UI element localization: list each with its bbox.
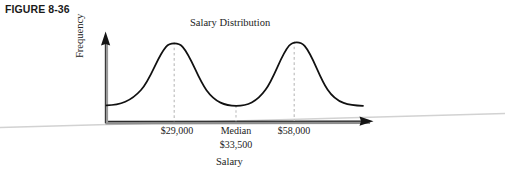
x-tick-label-mode-low: $29,000 (150, 125, 204, 136)
chart-title: Salary Distribution (190, 17, 270, 28)
y-axis-arrowhead (101, 32, 110, 46)
x-tick-label-mode-high: $58,000 (267, 125, 321, 136)
x-tick-label-median-value: $33,500 (209, 139, 263, 150)
distribution-curve (107, 42, 364, 106)
x-tick-label-median: Median (209, 125, 263, 136)
y-axis-label: Frequency (74, 14, 85, 58)
x-axis-label: Salary (216, 156, 243, 167)
x-axis-shadow (106, 122, 371, 123)
figure-panel: FIGURE 8-36 Salary Distribution Frequenc… (0, 0, 505, 178)
